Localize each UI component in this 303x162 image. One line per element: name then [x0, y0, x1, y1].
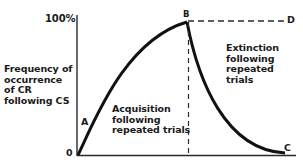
- point-label-d: D: [287, 15, 295, 25]
- extinction-label: Extinction following repeated trials: [226, 43, 279, 85]
- acquisition-label: Acquisition following repeated trials: [112, 104, 190, 136]
- extinction-label-line-1: Extinction: [226, 43, 279, 54]
- y-axis-top-tick: 100%: [45, 14, 76, 25]
- y-axis-label-line-4: following CS: [4, 96, 72, 107]
- extinction-label-line-4: trials: [226, 75, 279, 86]
- point-label-c: C: [284, 143, 291, 153]
- point-label-a: A: [81, 117, 88, 127]
- conditioning-curve-diagram: 100% 0 Frequency of occurrence of CR fol…: [0, 0, 303, 162]
- y-axis-label: Frequency of occurrence of CR following …: [4, 64, 72, 106]
- extinction-label-line-3: repeated: [226, 64, 279, 75]
- y-axis-label-line-1: Frequency of: [4, 64, 72, 75]
- acquisition-label-line-3: repeated trials: [112, 125, 190, 136]
- acquisition-label-line-1: Acquisition: [112, 104, 190, 115]
- y-axis-label-line-3: of CR: [4, 85, 72, 96]
- point-label-b: B: [183, 9, 189, 19]
- y-axis-bottom-tick: 0: [66, 148, 73, 159]
